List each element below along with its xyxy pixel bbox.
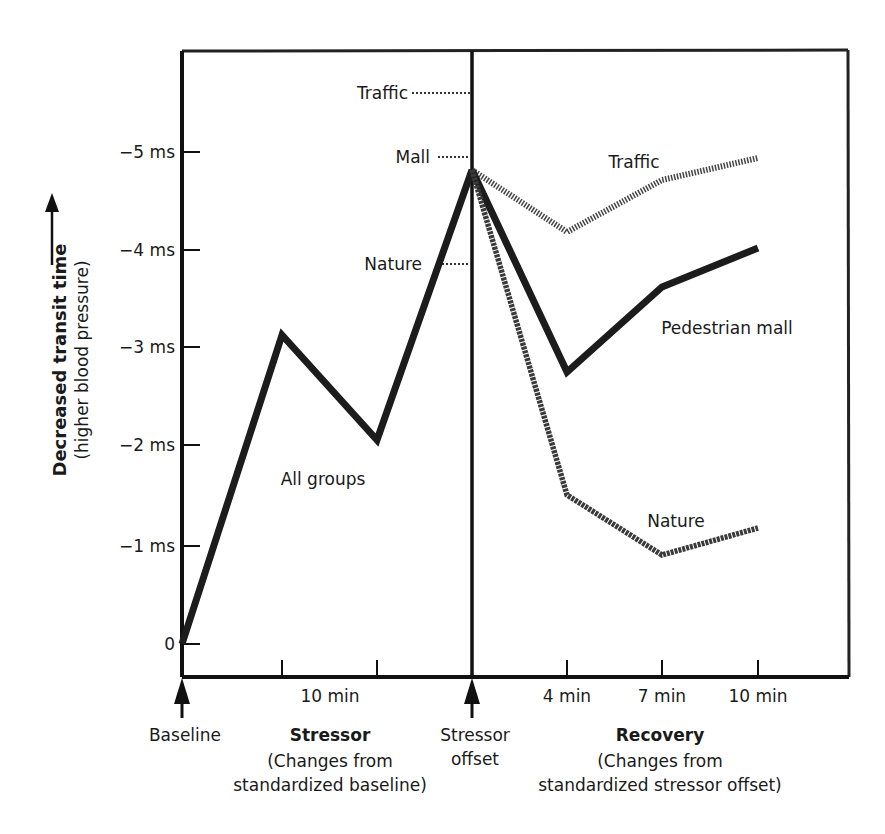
- label-all-groups: All groups: [281, 469, 366, 489]
- stressor-sublabel-2: standardized baseline): [233, 775, 427, 795]
- y-tick-4: −4 ms: [119, 240, 175, 260]
- label-traffic: Traffic: [607, 152, 659, 172]
- y-axis-label: Decreased transit time: [49, 243, 70, 476]
- stressor-label: Stressor: [290, 725, 371, 745]
- y-tick-3: −3 ms: [119, 337, 175, 357]
- stressor-offset-label-1: Stressor: [440, 725, 510, 745]
- chart-canvas: 0 −1 ms −2 ms −3 ms −4 ms −5 ms Decrease…: [0, 0, 885, 834]
- marker-traffic-label: Traffic: [356, 83, 408, 103]
- recovery-label: Recovery: [616, 725, 704, 745]
- x-ticks: [282, 660, 758, 677]
- series-nature: [472, 170, 758, 555]
- y-tick-0: 0: [164, 634, 175, 654]
- y-tick-1: −1 ms: [119, 536, 175, 556]
- x-tick-stressor-10: 10 min: [300, 686, 359, 706]
- series-all-groups: [182, 170, 472, 644]
- x-tick-labels: 10 min 4 min 7 min 10 min: [300, 686, 787, 706]
- baseline-arrow-icon: [174, 678, 190, 718]
- y-tick-2: −2 ms: [119, 435, 175, 455]
- label-nature: Nature: [647, 511, 705, 531]
- recovery-sublabel-2: standardized stressor offset): [538, 775, 782, 795]
- y-axis-title: Decreased transit time (higher blood pre…: [49, 243, 92, 476]
- stressor-offset-label-2: offset: [451, 749, 499, 769]
- stressor-sublabel-1: (Changes from: [267, 751, 393, 771]
- baseline-label: Baseline: [149, 725, 221, 745]
- y-axis-sublabel: (higher blood pressure): [72, 260, 92, 459]
- x-tick-recovery-7: 7 min: [638, 686, 686, 706]
- y-tick-5: −5 ms: [119, 142, 175, 162]
- offset-markers: Traffic Mall Nature: [356, 83, 470, 274]
- x-tick-recovery-10: 10 min: [728, 686, 787, 706]
- recovery-sublabel-1: (Changes from: [597, 751, 723, 771]
- plot-frame: [182, 50, 849, 677]
- marker-mall-label: Mall: [395, 147, 430, 167]
- y-tick-labels: 0 −1 ms −2 ms −3 ms −4 ms −5 ms: [119, 142, 175, 654]
- y-ticks: [182, 152, 200, 644]
- marker-nature-label: Nature: [364, 254, 422, 274]
- label-pedestrian-mall: Pedestrian mall: [661, 318, 793, 338]
- phase-labels: Baseline Stressor (Changes from standard…: [149, 725, 782, 795]
- x-tick-recovery-4: 4 min: [543, 686, 591, 706]
- stressor-offset-arrow-icon: [464, 678, 480, 718]
